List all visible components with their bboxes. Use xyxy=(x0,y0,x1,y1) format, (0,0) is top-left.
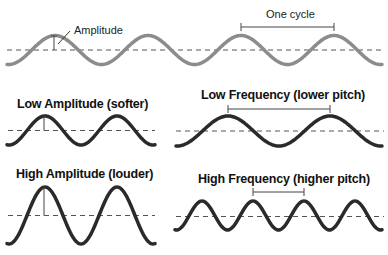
high-amplitude-panel xyxy=(7,187,155,244)
amplitude-label: Amplitude xyxy=(74,24,123,36)
one-cycle-label: One cycle xyxy=(266,8,315,20)
wave-canvas xyxy=(0,0,388,255)
low-amplitude-title: Low Amplitude (softer) xyxy=(17,97,148,111)
sound-wave-diagram: Amplitude One cycle Low Amplitude (softe… xyxy=(0,0,388,255)
high-frequency-title: High Frequency (higher pitch) xyxy=(198,172,370,186)
high-amplitude-title: High Amplitude (louder) xyxy=(16,167,153,181)
reference-wave-group xyxy=(7,23,384,64)
low-frequency-panel xyxy=(176,105,384,146)
high-frequency-wave xyxy=(175,201,382,230)
low-amplitude-panel xyxy=(7,116,155,145)
low-frequency-title: Low Frequency (lower pitch) xyxy=(201,88,365,102)
high-frequency-panel xyxy=(175,188,384,230)
